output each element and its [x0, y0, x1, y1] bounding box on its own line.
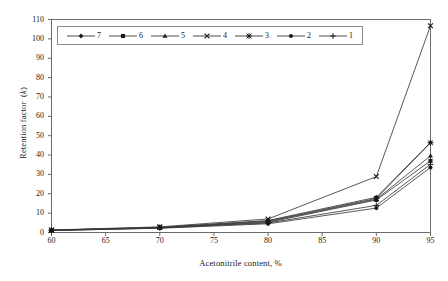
legend-marker-diamond-icon: [66, 30, 96, 42]
data-point-3: [428, 140, 434, 146]
data-point-5: [428, 153, 433, 157]
legend-item-1[interactable]: 1: [318, 30, 354, 42]
chart-figure: Retention factor (k) Acetonitrile conten…: [0, 0, 448, 281]
series-line-7: [52, 142, 431, 230]
legend-label: 7: [97, 32, 101, 40]
data-point-4: [374, 174, 379, 179]
legend-label: 3: [265, 32, 269, 40]
legend-item-7[interactable]: 7: [66, 30, 102, 42]
legend-item-3[interactable]: 3: [234, 30, 270, 42]
legend-item-6[interactable]: 6: [108, 30, 144, 42]
series-line-5: [52, 156, 431, 230]
legend-item-2[interactable]: 2: [276, 30, 312, 42]
legend-marker-star-icon: [234, 30, 264, 42]
legend-marker-square-icon: [108, 30, 138, 42]
legend-label: 6: [139, 32, 143, 40]
data-point-3: [373, 196, 379, 202]
legend-item-4[interactable]: 4: [192, 30, 228, 42]
series-line-3: [52, 143, 431, 230]
series-line-6: [52, 161, 431, 231]
legend-label: 2: [307, 32, 311, 40]
legend-label: 1: [349, 32, 353, 40]
legend-item-5[interactable]: 5: [150, 30, 186, 42]
legend-label: 4: [223, 32, 227, 40]
legend-marker-x-icon: [192, 30, 222, 42]
legend-marker-circle-icon: [276, 30, 306, 42]
legend-marker-plus-icon: [318, 30, 348, 42]
legend-marker-triangle-icon: [150, 30, 180, 42]
chart-legend: 7654321: [57, 26, 363, 45]
legend-label: 5: [181, 32, 185, 40]
